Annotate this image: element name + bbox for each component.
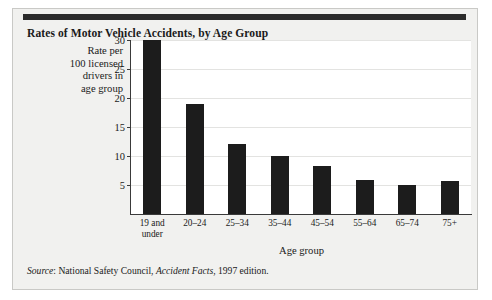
y-axis-title-line: drivers in [31,70,123,83]
x-tick-label: 75+ [422,218,478,229]
source-publisher: National Safety Council, [58,265,156,276]
y-tick-mark [127,127,131,128]
y-tick-mark [127,69,131,70]
source-note: Source: National Safety Council, Acciden… [27,265,269,276]
source-edition: , 1997 edition. [213,265,268,276]
bar [271,156,289,214]
x-axis-title: Age group [131,245,472,256]
chart-title: Rates of Motor Vehicle Accidents, by Age… [27,27,268,39]
y-axis-title-line: age group [31,83,123,96]
gridline [131,156,471,157]
y-axis-title-line: 100 licensed [31,58,123,71]
source-work-title: Accident Facts [156,265,213,276]
bar [398,185,416,214]
y-tick-label: 25 [115,64,126,75]
bar [143,40,161,214]
figure-panel: Rates of Motor Vehicle Accidents, by Age… [12,8,478,290]
decorative-top-rule [23,14,466,20]
bar [356,180,374,214]
y-tick-label: 20 [115,93,126,104]
bar [313,166,331,214]
y-tick-label: 15 [115,122,126,133]
y-tick-label: 30 [115,35,126,46]
gridline [131,69,471,70]
bar [228,144,246,214]
y-tick-mark [127,156,131,157]
y-tick-label: 5 [120,180,125,191]
y-axis-title-line: Rate per [31,45,123,58]
y-tick-mark [127,40,131,41]
bar [441,181,459,214]
gridline [131,40,471,41]
y-axis-title: Rate per100 licenseddrivers inage group [31,45,123,95]
y-tick-mark [127,185,131,186]
gridline [131,98,471,99]
source-label: Source [27,265,53,276]
gridline [131,127,471,128]
plot-area: 51015202530 [131,40,471,214]
x-axis-line [131,214,472,215]
gridline [131,185,471,186]
bar [186,104,204,214]
y-tick-mark [127,98,131,99]
y-tick-label: 10 [115,151,126,162]
